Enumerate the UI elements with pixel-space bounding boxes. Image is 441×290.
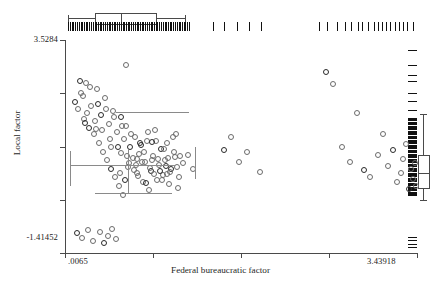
rug-tick [382, 22, 383, 31]
rug-tick [362, 22, 363, 31]
rug-tick [70, 22, 71, 31]
data-point [141, 149, 147, 155]
data-point [185, 152, 191, 158]
rug-tick [399, 22, 400, 31]
data-point [323, 69, 329, 75]
reference-segment [116, 112, 190, 113]
scatterplot-figure: .0065 3.43918 3.5284 -1.41452 Federal bu… [0, 0, 441, 290]
data-point [406, 186, 412, 192]
data-point [102, 95, 108, 101]
data-point [244, 149, 250, 155]
boxplot-whisker-cap [420, 114, 427, 115]
rug-tick [159, 22, 160, 31]
rug-tick [189, 22, 190, 31]
data-point [139, 159, 145, 165]
rug-tick [129, 22, 130, 31]
x-axis-title: Federal bureaucratic factor [0, 265, 441, 275]
rug-tick [73, 22, 74, 31]
data-point [75, 106, 81, 112]
right-marginal-boxplot [418, 40, 428, 253]
reference-segment [70, 165, 175, 166]
rug-tick [96, 22, 97, 31]
x-tick [65, 253, 66, 258]
data-point [98, 112, 104, 118]
rug-tick [319, 22, 320, 31]
data-point [413, 183, 419, 189]
y-axis-title: Local factor [12, 78, 22, 188]
rug-tick [390, 22, 391, 31]
rug-tick [79, 22, 80, 31]
data-point [165, 155, 171, 161]
rug-tick [110, 22, 111, 31]
rug-tick [103, 22, 104, 31]
rug-tick [180, 22, 181, 31]
x-tick [329, 253, 330, 258]
data-point [161, 146, 167, 152]
rug-tick [152, 22, 153, 31]
rug-tick [161, 22, 162, 31]
reference-segment [195, 147, 196, 179]
rug-tick [138, 22, 139, 31]
data-point [72, 99, 78, 105]
data-point [108, 166, 114, 172]
rug-tick [91, 22, 92, 31]
data-point [108, 144, 114, 150]
data-point [149, 157, 155, 163]
data-point [390, 147, 396, 153]
data-point [95, 101, 101, 107]
rug-tick [77, 22, 78, 31]
rug-tick [345, 22, 346, 31]
rug-tick [145, 22, 146, 31]
top-marginal-rug [65, 22, 417, 31]
rug-tick [117, 22, 118, 31]
rug-tick [143, 22, 144, 31]
rug-tick [261, 22, 262, 31]
data-point [123, 62, 129, 68]
data-point [403, 141, 409, 147]
data-point [137, 140, 143, 146]
rug-tick [407, 22, 408, 31]
boxplot-box [418, 155, 430, 189]
data-point [119, 123, 125, 129]
data-point [103, 106, 109, 112]
rug-tick [119, 22, 120, 31]
data-point [85, 227, 91, 233]
data-point [116, 183, 122, 189]
boxplot-median [418, 173, 429, 174]
rug-tick [107, 22, 108, 31]
data-point [221, 147, 227, 153]
data-point [412, 160, 418, 166]
rug-tick [358, 22, 359, 31]
rug-tick [413, 22, 414, 31]
data-point [105, 233, 111, 239]
data-point [100, 149, 106, 155]
rug-tick [351, 22, 352, 31]
data-point [118, 150, 124, 156]
x-tick [153, 253, 154, 258]
data-point [134, 156, 140, 162]
data-point [111, 114, 117, 120]
data-point [121, 136, 127, 142]
data-point [375, 152, 381, 158]
data-point [155, 156, 161, 162]
rug-tick [224, 22, 225, 31]
boxplot-whisker-cap [420, 200, 427, 201]
data-point [164, 171, 170, 177]
data-point [347, 159, 353, 165]
rug-tick [177, 22, 178, 31]
y-axis-max-label: 3.5284 [20, 34, 58, 44]
data-point [94, 86, 100, 92]
rug-tick [133, 22, 134, 31]
data-point [380, 131, 386, 137]
data-point [93, 126, 99, 132]
rug-tick [135, 22, 136, 31]
rug-tick [185, 22, 186, 31]
rug-tick [89, 22, 90, 31]
rug-tick [249, 22, 250, 31]
data-point [87, 84, 93, 90]
rug-tick [98, 22, 99, 31]
rug-tick [173, 22, 174, 31]
data-point [177, 153, 183, 159]
boxplot-whisker-cap [185, 15, 186, 22]
rug-tick [112, 22, 113, 31]
